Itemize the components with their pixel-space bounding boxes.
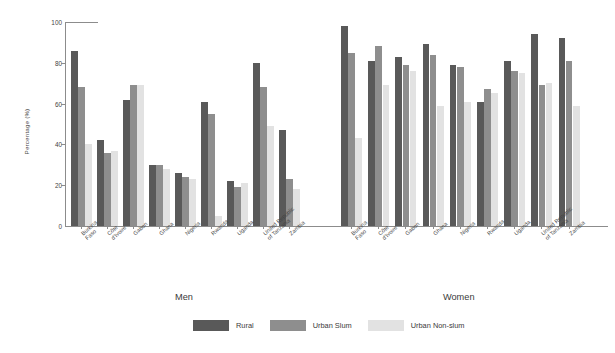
bar-group bbox=[253, 22, 276, 226]
y-tick-label-0: 0 bbox=[58, 223, 62, 230]
bar bbox=[267, 126, 274, 226]
bar bbox=[137, 85, 144, 226]
bar bbox=[111, 151, 118, 226]
x-tick-mark bbox=[569, 226, 570, 229]
legend-item: Urban Slum bbox=[270, 320, 352, 331]
bar-group bbox=[97, 22, 120, 226]
bar bbox=[355, 138, 362, 226]
bar-group bbox=[531, 22, 554, 226]
y-tick-label-100: 100 bbox=[51, 19, 62, 26]
bar bbox=[484, 89, 491, 226]
panel-title-men: Men bbox=[175, 292, 193, 302]
bar bbox=[410, 71, 417, 226]
bar bbox=[71, 51, 78, 226]
bar-group bbox=[227, 22, 250, 226]
bar bbox=[559, 38, 566, 226]
bar bbox=[189, 179, 196, 226]
legend-label: Urban Non-slum bbox=[411, 321, 465, 330]
panel-women bbox=[337, 22, 608, 226]
bar bbox=[573, 106, 580, 226]
bar bbox=[85, 144, 92, 226]
y-tick-mark-20 bbox=[61, 185, 65, 186]
bar bbox=[368, 61, 375, 226]
x-tick-mark bbox=[460, 226, 461, 229]
bar bbox=[395, 57, 402, 226]
bar bbox=[403, 65, 410, 226]
bar bbox=[566, 61, 573, 226]
bar bbox=[531, 34, 538, 226]
bar bbox=[234, 187, 241, 226]
bar-group bbox=[395, 22, 418, 226]
bar bbox=[130, 85, 137, 226]
bar-group bbox=[201, 22, 224, 226]
bar bbox=[104, 153, 111, 226]
legend-swatch bbox=[193, 320, 229, 331]
legend-label: Rural bbox=[236, 321, 254, 330]
bar bbox=[423, 44, 430, 226]
bar bbox=[175, 173, 182, 226]
bar-group bbox=[71, 22, 94, 226]
bar-group bbox=[279, 22, 302, 226]
bar bbox=[341, 26, 348, 226]
y-tick-mark-60 bbox=[61, 104, 65, 105]
bar bbox=[504, 61, 511, 226]
panel-men bbox=[65, 22, 327, 226]
bar bbox=[156, 165, 163, 226]
bar bbox=[227, 181, 234, 226]
bar bbox=[208, 114, 215, 226]
bar bbox=[201, 102, 208, 226]
legend-item: Urban Non-slum bbox=[368, 320, 465, 331]
bar-group bbox=[477, 22, 500, 226]
legend-item: Rural bbox=[193, 320, 254, 331]
panel-title-women: Women bbox=[443, 292, 475, 302]
bar-group bbox=[175, 22, 198, 226]
bar bbox=[260, 87, 267, 226]
bar bbox=[123, 100, 130, 226]
bar bbox=[430, 55, 437, 226]
plot-area bbox=[65, 22, 608, 226]
bar bbox=[450, 65, 457, 226]
legend-label: Urban Slum bbox=[313, 321, 352, 330]
bar bbox=[464, 102, 471, 226]
bar-group bbox=[450, 22, 473, 226]
bar-group bbox=[341, 22, 364, 226]
bar bbox=[241, 183, 248, 226]
y-tick-mark-40 bbox=[61, 144, 65, 145]
y-tick-labels: 020406080100 bbox=[38, 22, 62, 225]
bar bbox=[97, 140, 104, 226]
legend-swatch bbox=[368, 320, 404, 331]
bar bbox=[511, 71, 518, 226]
bar-group bbox=[504, 22, 527, 226]
bar bbox=[491, 93, 498, 226]
bar-group bbox=[123, 22, 146, 226]
y-tick-mark-80 bbox=[61, 63, 65, 64]
bar bbox=[78, 87, 85, 226]
grouped-bar-chart: Percentage (%) 020406080100 BurkinaFasoC… bbox=[0, 0, 615, 353]
bar bbox=[253, 63, 260, 226]
bar bbox=[383, 85, 390, 226]
bar bbox=[477, 102, 484, 226]
bar bbox=[539, 85, 546, 226]
bar bbox=[348, 53, 355, 226]
bar-group bbox=[559, 22, 582, 226]
bar bbox=[457, 67, 464, 226]
bar-group bbox=[423, 22, 446, 226]
legend-swatch bbox=[270, 320, 306, 331]
y-axis-title: Percentage (%) bbox=[23, 62, 30, 202]
bar bbox=[182, 177, 189, 226]
bar-group bbox=[149, 22, 172, 226]
x-tick-mark bbox=[433, 226, 434, 229]
bar bbox=[437, 106, 444, 226]
bar bbox=[163, 169, 170, 226]
bar bbox=[375, 46, 382, 226]
bar bbox=[149, 165, 156, 226]
bar bbox=[546, 83, 553, 226]
chart-legend: RuralUrban SlumUrban Non-slum bbox=[193, 320, 481, 331]
bar bbox=[519, 73, 526, 226]
bar-group bbox=[368, 22, 391, 226]
